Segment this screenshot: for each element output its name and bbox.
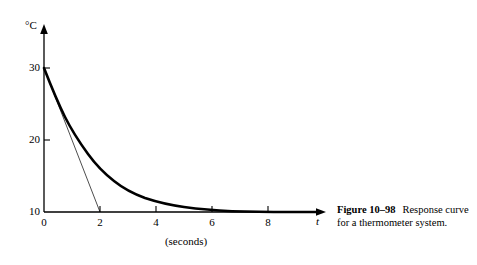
x-tick-label-2: 2 xyxy=(92,217,108,228)
x-tick-label-4: 4 xyxy=(148,217,164,228)
y-tick-label-30: 30 xyxy=(20,62,40,73)
x-axis-title: (seconds) xyxy=(143,236,229,247)
y-tick-label-10: 10 xyxy=(20,206,40,217)
x-axis-symbol-label: t xyxy=(316,216,319,227)
y-tick-label-20: 20 xyxy=(20,134,40,145)
figure-caption: Figure 10–98Response curve for a thermom… xyxy=(337,203,470,229)
x-tick-label-8: 8 xyxy=(260,217,276,228)
figure-caption-label: Figure 10–98 xyxy=(337,204,395,215)
x-tick-label-0: 0 xyxy=(36,217,52,228)
x-tick-label-6: 6 xyxy=(204,217,220,228)
y-axis xyxy=(40,24,48,212)
response-curve-path xyxy=(44,68,318,212)
figure-container: °C 30 20 10 0 2 4 6 8 t (seconds) Figure… xyxy=(0,0,477,265)
y-axis-unit-label: °C xyxy=(25,20,37,31)
